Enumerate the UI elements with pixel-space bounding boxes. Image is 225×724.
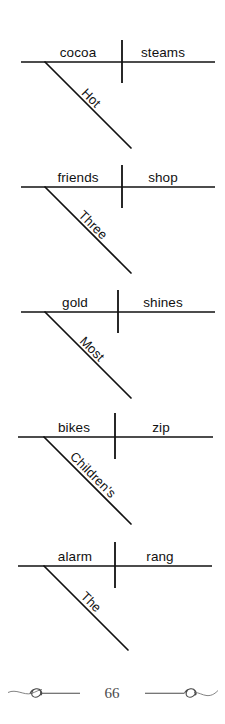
- sentence-diagram-worksheet: cocoa steams Hot friends shop Three gold…: [0, 0, 225, 724]
- sentence-diagram-2: friends shop Three: [0, 125, 225, 250]
- verb-word-3: shines: [143, 295, 183, 310]
- page-footer: 66: [0, 672, 225, 720]
- footer-ornament-left-icon: [8, 689, 80, 697]
- subject-word-3: gold: [62, 295, 88, 310]
- sentence-diagram-3: gold shines Most: [0, 250, 225, 375]
- sentence-diagram-5: alarm rang The: [0, 500, 225, 625]
- subject-word-4: bikes: [58, 420, 90, 435]
- verb-word-1: steams: [141, 45, 185, 60]
- subject-word-5: alarm: [58, 549, 92, 564]
- verb-word-4: zip: [152, 420, 170, 435]
- modifier-word-4: Children's: [67, 449, 119, 501]
- modifier-word-1: Hot: [79, 85, 104, 110]
- modifier-word-5: The: [78, 588, 105, 615]
- modifier-word-2: Three: [76, 207, 111, 242]
- verb-word-5: rang: [146, 549, 173, 564]
- sentence-diagram-1: cocoa steams Hot: [0, 0, 225, 125]
- subject-word-1: cocoa: [60, 45, 97, 60]
- verb-word-2: shop: [148, 170, 178, 185]
- footer-ornament-right-icon: [145, 689, 218, 697]
- sentence-diagram-4: bikes zip Children's: [0, 375, 225, 500]
- page-number: 66: [105, 685, 121, 701]
- subject-word-2: friends: [57, 170, 98, 185]
